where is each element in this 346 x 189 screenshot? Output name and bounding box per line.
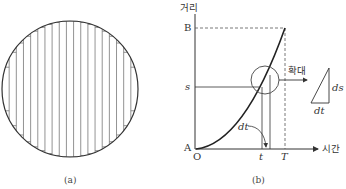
tick-T: T (281, 151, 289, 162)
origin-o: O (193, 151, 201, 162)
tick-s: s (185, 81, 190, 92)
dt-label: dt (238, 121, 249, 132)
tick-b: B (184, 22, 191, 33)
magnify-label: 확대 (288, 65, 306, 76)
differential-triangle (311, 68, 329, 103)
tick-t: t (259, 151, 264, 162)
caption-b: (b) (252, 175, 265, 185)
x-axis-label: 시간 (322, 143, 340, 154)
figure-canvas: (a) 확대 ds dt dt 거리 시간 B s A O t T (0, 0, 346, 189)
figure-b: 확대 ds dt dt 거리 시간 B s A O t T (b) (180, 2, 344, 185)
y-axis-label: 거리 (180, 2, 198, 13)
triangle-ds-label: ds (332, 82, 344, 93)
caption-a: (a) (64, 175, 76, 185)
triangle-dt-label: dt (314, 105, 325, 116)
circle-outline (2, 21, 138, 157)
origin-a: A (183, 142, 192, 153)
magnify-circle (251, 66, 279, 94)
dt-pointer (248, 126, 266, 147)
vertical-strips (2, 21, 138, 157)
figure-a: (a) (2, 21, 138, 185)
